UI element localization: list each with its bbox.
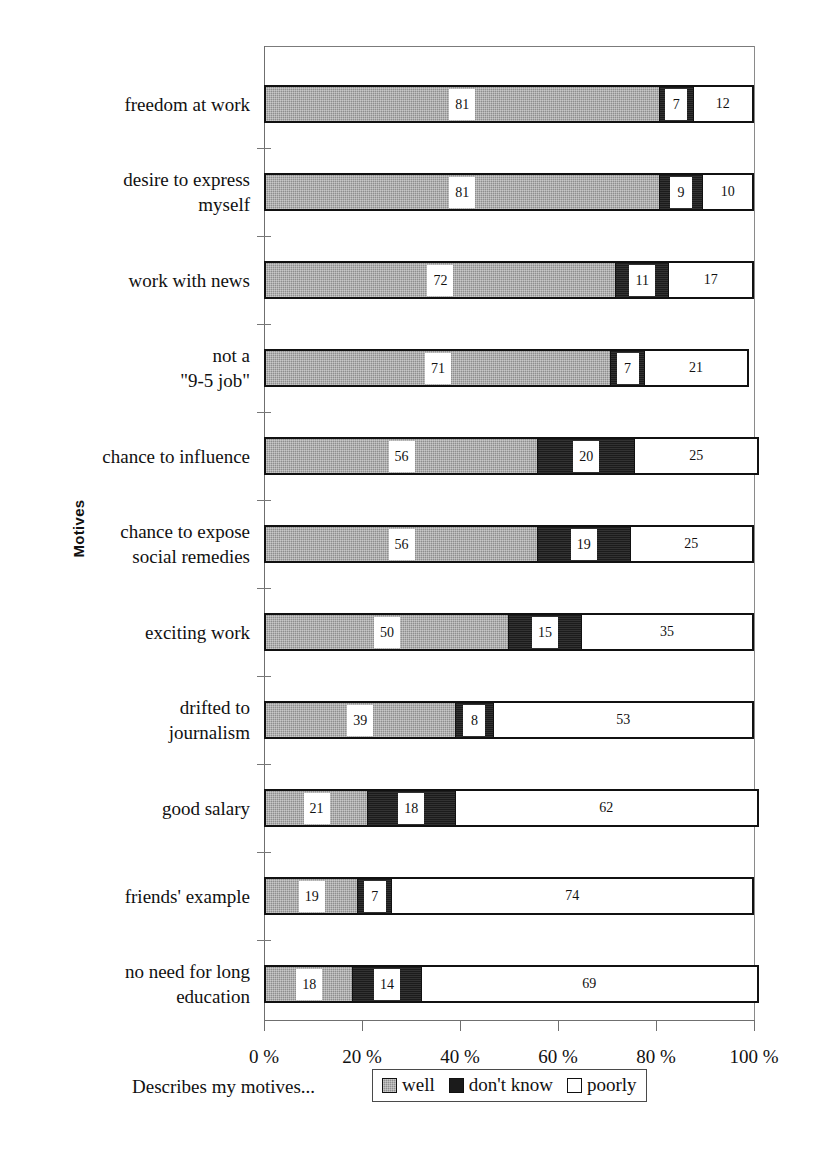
legend-entry: don't know (449, 1074, 553, 1096)
bar-segment-dont-know: 20 (538, 439, 635, 473)
bar-value-label: 72 (427, 265, 453, 296)
bar-segment-dont-know: 8 (456, 703, 495, 737)
bar-segment-dont-know: 9 (660, 175, 704, 209)
category-label: friends' example (60, 884, 250, 909)
bar-value-label: 17 (704, 273, 718, 287)
bar-segment-well: 21 (266, 791, 368, 825)
category-label-line: "9-5 job" (60, 368, 250, 393)
bar-track: 562025 (264, 437, 759, 475)
category-label-line: exciting work (60, 620, 250, 645)
bar-segment-poorly: 53 (494, 703, 752, 737)
plot-area: 8171281910721117717215620255619255015353… (264, 46, 754, 1021)
category-label-line: education (60, 984, 250, 1009)
category-label-line: desire to express (60, 167, 250, 192)
bar-value-label: 18 (296, 969, 322, 1000)
bar-track: 181469 (264, 965, 759, 1003)
category-label-line: not a (60, 343, 250, 368)
y-tick (257, 412, 271, 413)
y-tick (257, 676, 271, 677)
x-tick-label: 0 % (219, 1046, 309, 1068)
bar-value-label: 69 (582, 977, 596, 991)
bar-value-label: 7 (617, 353, 639, 384)
bar-value-label: 56 (389, 441, 415, 472)
bar-value-label: 7 (364, 881, 386, 912)
bar-value-label: 9 (670, 177, 692, 208)
category-label-line: drifted to (60, 695, 250, 720)
x-tick (558, 1020, 559, 1031)
bar-track: 19774 (264, 877, 754, 915)
category-label-line: friends' example (60, 884, 250, 909)
x-axis-caption: Describes my motives... (132, 1076, 315, 1098)
x-tick-label: 20 % (317, 1046, 407, 1068)
legend: welldon't knowpoorly (372, 1069, 647, 1102)
bar-segment-well: 72 (266, 263, 616, 297)
bar-value-label: 15 (532, 617, 558, 648)
x-tick (362, 1020, 363, 1031)
bar-value-label: 19 (299, 881, 325, 912)
bar-segment-well: 56 (266, 527, 538, 561)
category-label: chance to exposesocial remedies (60, 519, 250, 569)
bar-track: 561925 (264, 525, 754, 563)
y-tick (257, 236, 271, 237)
bar-value-label: 25 (684, 537, 698, 551)
bar-segment-well: 18 (266, 967, 353, 1001)
bar-segment-dont-know: 15 (509, 615, 582, 649)
x-tick (656, 1020, 657, 1031)
legend-swatch-poorly (567, 1078, 582, 1093)
category-label: good salary (60, 796, 250, 821)
x-tick-label: 80 % (611, 1046, 701, 1068)
bar-track: 71721 (264, 349, 749, 387)
legend-label: don't know (469, 1074, 553, 1096)
bar-segment-poorly: 10 (703, 175, 752, 209)
bar-value-label: 25 (689, 449, 703, 463)
category-label: drifted tojournalism (60, 695, 250, 745)
bar-segment-dont-know: 7 (611, 351, 645, 385)
bar-segment-poorly: 69 (422, 967, 757, 1001)
bar-value-label: 8 (463, 705, 485, 736)
bar-value-label: 71 (425, 353, 451, 384)
bar-value-label: 12 (716, 97, 730, 111)
bar-segment-poorly: 17 (669, 263, 752, 297)
x-tick (754, 1020, 755, 1031)
category-label: desire to expressmyself (60, 167, 250, 217)
legend-entry: well (382, 1074, 435, 1096)
bar-segment-poorly: 25 (635, 439, 757, 473)
bar-segment-poorly: 74 (392, 879, 752, 913)
bar-segment-poorly: 35 (582, 615, 752, 649)
bar-value-label: 74 (565, 889, 579, 903)
y-tick (257, 764, 271, 765)
category-label: freedom at work (60, 92, 250, 117)
category-label-line: freedom at work (60, 92, 250, 117)
y-tick (257, 852, 271, 853)
category-label-line: social remedies (60, 544, 250, 569)
bar-segment-well: 56 (266, 439, 538, 473)
bar-segment-dont-know: 14 (353, 967, 421, 1001)
y-tick (257, 324, 271, 325)
x-tick-label: 60 % (513, 1046, 603, 1068)
bar-segment-poorly: 25 (631, 527, 753, 561)
bar-segment-well: 39 (266, 703, 456, 737)
bar-segment-well: 81 (266, 175, 660, 209)
y-tick (257, 940, 271, 941)
legend-entry: poorly (567, 1074, 637, 1096)
category-label-line: good salary (60, 796, 250, 821)
stacked-bar-chart: Motives freedom at workdesire to express… (0, 0, 821, 1163)
bar-value-label: 53 (616, 713, 630, 727)
bar-value-label: 56 (389, 529, 415, 560)
y-tick (257, 148, 271, 149)
bar-segment-dont-know: 18 (368, 791, 455, 825)
legend-swatch-dont-know (449, 1078, 464, 1093)
category-label-line: work with news (60, 268, 250, 293)
bar-value-label: 81 (449, 177, 475, 208)
bar-value-label: 39 (347, 705, 373, 736)
category-label: no need for longeducation (60, 959, 250, 1009)
bar-track: 501535 (264, 613, 754, 651)
category-label: chance to influence (60, 444, 250, 469)
plot-border-right (754, 46, 755, 1021)
legend-label: well (402, 1074, 435, 1096)
bar-segment-poorly: 12 (694, 87, 752, 121)
bar-segment-dont-know: 11 (616, 263, 669, 297)
bar-value-label: 18 (398, 793, 424, 824)
x-tick (264, 1020, 265, 1031)
category-label-line: no need for long (60, 959, 250, 984)
